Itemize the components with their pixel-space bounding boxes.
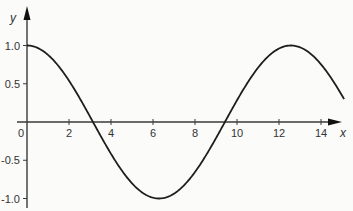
y-tick-label: 0.5 [5,78,20,90]
x-tick-label: 10 [231,127,243,139]
y-tick-label: 1.0 [5,40,20,52]
cosine-chart: 024681012141.00.5-0.5-1.0 y x [0,0,353,211]
x-tick-label: 4 [108,127,114,139]
y-tick-label: -0.5 [1,154,20,166]
x-tick-label: 8 [192,127,198,139]
x-tick-label: 12 [273,127,285,139]
y-axis-arrow-icon [24,6,31,20]
x-axis-label: x [339,126,347,140]
x-tick-label: 2 [66,127,72,139]
x-tick-label: 0 [18,127,24,139]
x-tick-label: 14 [315,127,327,139]
y-tick-label: -1.0 [1,193,20,205]
y-axis-label: y [9,11,17,25]
x-axis-arrow-icon [328,119,342,126]
axes [17,6,342,208]
x-tick-label: 6 [150,127,156,139]
